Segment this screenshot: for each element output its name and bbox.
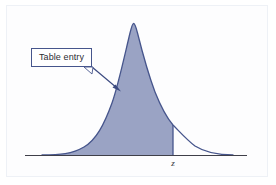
x-axis-tick-label-z: z xyxy=(166,158,180,168)
callout-arrow-line xyxy=(92,67,117,88)
callout-label: Table entry xyxy=(39,53,84,62)
callout-table-entry[interactable]: Table entry xyxy=(31,48,92,67)
callout-tail xyxy=(84,67,93,74)
normal-curve-plot xyxy=(0,0,276,185)
normal-distribution-figure: Table entry z xyxy=(0,0,276,185)
